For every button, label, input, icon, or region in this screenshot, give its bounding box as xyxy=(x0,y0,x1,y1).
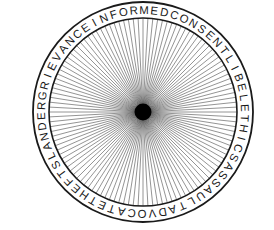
rim-letter: F xyxy=(108,8,118,22)
spoke xyxy=(59,114,139,155)
spoke xyxy=(146,114,222,163)
rim-letter: N xyxy=(37,131,51,142)
spoke xyxy=(144,24,176,108)
rim-letter: T xyxy=(177,199,188,213)
spoke xyxy=(145,31,190,109)
spoke xyxy=(145,115,190,193)
spoke xyxy=(55,113,139,145)
rim-letter: I xyxy=(42,72,54,79)
rim-letter: D xyxy=(159,6,170,19)
spoke xyxy=(109,24,141,108)
rim-letter: V xyxy=(148,207,157,220)
spoke xyxy=(92,33,141,109)
spoke xyxy=(146,114,224,159)
spoke xyxy=(146,61,222,110)
rim-letter: R xyxy=(129,4,138,17)
spoke xyxy=(145,28,186,108)
copyright-credit: © Cengage Learning 2014 xyxy=(273,224,274,230)
rim-letter: T xyxy=(239,114,251,122)
spoke xyxy=(109,116,141,200)
spoke xyxy=(50,102,140,111)
rim-letter: O xyxy=(137,208,146,220)
spoke xyxy=(143,19,152,109)
spoke xyxy=(143,116,152,206)
rim-letter: A xyxy=(167,203,178,217)
spoke xyxy=(146,69,226,110)
rim-letter: I xyxy=(90,16,99,28)
spoke xyxy=(133,19,142,109)
rim-letter: D xyxy=(36,122,49,132)
wheel-diagram: INFORMEDCONSENTLIBELETHICSASSAULTADVOCAT… xyxy=(0,0,274,230)
spoke xyxy=(146,65,224,110)
rim-letter: C xyxy=(127,207,137,220)
spoke xyxy=(147,113,231,145)
rim-letter: L xyxy=(223,53,237,65)
hub-circle xyxy=(135,104,152,121)
rim-letter: I xyxy=(229,64,241,72)
rim-letter: E xyxy=(35,112,47,120)
rim-letter: H xyxy=(237,123,250,133)
spoke xyxy=(62,114,140,159)
spoke xyxy=(96,115,141,193)
spoke xyxy=(144,116,176,200)
rim-letter: R xyxy=(35,101,47,110)
rim-letter: R xyxy=(38,80,52,91)
spoke xyxy=(147,112,237,121)
spoke xyxy=(146,114,226,155)
rim-letter: L xyxy=(238,93,251,101)
rim-letter: E xyxy=(150,4,159,17)
spoke xyxy=(147,78,231,110)
spoke xyxy=(100,115,141,195)
rim-letter: L xyxy=(186,195,197,209)
spoke xyxy=(64,114,140,163)
spoke xyxy=(100,28,141,108)
rim-letter: D xyxy=(157,205,167,218)
spoke xyxy=(145,115,194,191)
figure-root: INFORMEDCONSENTLIBELETHICSASSAULTADVOCAT… xyxy=(0,0,274,230)
spoke xyxy=(133,116,142,206)
spoke xyxy=(147,102,237,111)
spoke xyxy=(145,115,186,195)
rim-letter: A xyxy=(116,205,126,218)
spoke xyxy=(92,115,141,191)
rim-letter: E xyxy=(239,104,251,112)
rim-letter: T xyxy=(106,202,116,216)
spoke xyxy=(96,31,141,109)
rim-letter: G xyxy=(36,90,49,101)
spoke xyxy=(145,33,194,109)
spoke xyxy=(64,61,140,110)
rim-letter: B xyxy=(232,72,246,83)
rim-letter: L xyxy=(44,151,58,162)
rim-letter: O xyxy=(118,5,129,19)
rim-letter: M xyxy=(139,4,149,16)
spoke xyxy=(59,69,139,110)
rim-letter: E xyxy=(235,82,249,93)
rim-letter: I xyxy=(235,135,247,141)
rim-letter: N xyxy=(98,11,110,25)
spoke xyxy=(50,112,140,121)
spoke xyxy=(62,65,140,110)
spoke xyxy=(55,78,139,110)
